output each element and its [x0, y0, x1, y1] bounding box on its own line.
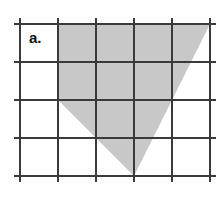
figure-canvas: a. — [0, 0, 219, 198]
grid-figure: a. — [0, 0, 219, 198]
part-label: a. — [29, 29, 42, 46]
